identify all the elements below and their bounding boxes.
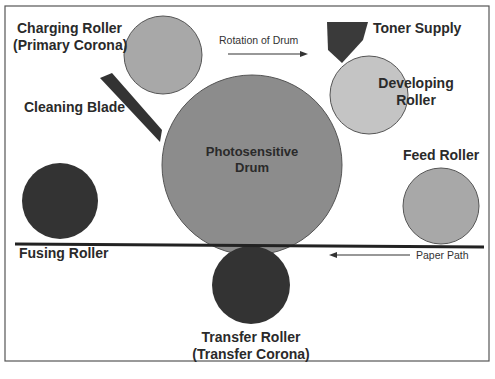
developing-roller-label-1: Developing: [378, 75, 453, 91]
charging-roller-label-2: (Primary Corona): [13, 37, 127, 53]
developing-roller-label-2: Roller: [396, 92, 436, 108]
laser-printer-diagram: Charging Roller (Primary Corona) Rotatio…: [0, 0, 495, 379]
toner-supply-label: Toner Supply: [373, 20, 462, 36]
transfer-roller-shape: [212, 246, 290, 324]
rotation-label: Rotation of Drum: [219, 34, 299, 46]
fusing-roller-label: Fusing Roller: [19, 245, 109, 261]
cleaning-blade-label: Cleaning Blade: [24, 99, 125, 115]
drum-label-1: Photosensitive: [206, 144, 298, 159]
fusing-roller-shape: [22, 163, 98, 239]
charging-roller-label-1: Charging Roller: [17, 20, 123, 36]
transfer-roller-label-1: Transfer Roller: [202, 329, 301, 345]
paper-path-label: Paper Path: [416, 249, 469, 261]
drum-label-2: Drum: [235, 160, 269, 175]
transfer-roller-label-2: (Transfer Corona): [192, 346, 309, 362]
feed-roller-label: Feed Roller: [403, 147, 480, 163]
feed-roller-shape: [403, 168, 479, 244]
charging-roller-shape: [124, 16, 202, 94]
